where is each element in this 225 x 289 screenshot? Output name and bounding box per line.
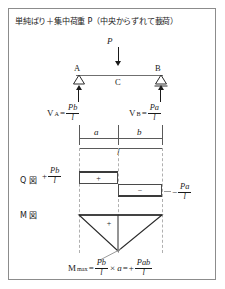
reaction-b-arrow-head-icon: [158, 85, 164, 90]
moment-max-result-denominator: l: [135, 268, 153, 278]
reaction-b-subscript: B: [137, 110, 141, 117]
shear-positive-denominator: l: [48, 176, 61, 186]
reaction-b-symbol: V: [129, 108, 136, 118]
load-arrow-shaft: [118, 47, 119, 62]
reaction-b-formula: V B = Pa l: [129, 104, 161, 123]
moment-max-formula: M max = Pb l × a = + Pab l: [68, 259, 152, 278]
load-point-label-c: C: [115, 77, 121, 87]
dim-label-a: a: [94, 127, 99, 137]
moment-max-term1-fraction: Pb l: [95, 259, 108, 278]
dim-tick-center: [118, 125, 119, 145]
shear-positive-sign: +: [42, 171, 47, 181]
shear-negative-denominator: l: [178, 192, 191, 202]
moment-area-sign: +: [104, 219, 114, 228]
reaction-b-equals: =: [142, 108, 147, 118]
dim-line-span: [79, 148, 163, 149]
support-label-b: B: [155, 63, 161, 73]
shear-negative-numerator: Pa: [178, 183, 191, 192]
reaction-b-denominator: l: [148, 113, 161, 123]
reaction-a-symbol: V: [47, 108, 54, 118]
reaction-a-numerator: Pb: [66, 104, 79, 113]
reaction-a-denominator: l: [66, 113, 79, 123]
shear-positive-numerator: Pb: [48, 167, 61, 176]
dim-tick-left: [79, 125, 80, 145]
moment-max-term1-numerator: Pb: [95, 259, 108, 268]
reaction-a-formula: V A = Pb l: [47, 104, 79, 123]
reaction-b-arrow-shaft: [160, 89, 161, 102]
shear-block-negative: −: [118, 184, 162, 197]
moment-max-times: ×: [110, 263, 115, 273]
reaction-a-arrow-shaft: [78, 89, 79, 102]
shear-negative-leader: [164, 191, 171, 192]
dim-tick-right: [162, 125, 163, 145]
support-a-pinned-icon: [72, 75, 86, 85]
shear-negative-fraction: Pa l: [178, 183, 191, 202]
moment-max-term1-denominator: l: [95, 268, 108, 278]
reaction-a-arrow-head-icon: [76, 85, 82, 90]
shear-diagram-label: Q 図: [20, 174, 37, 185]
dim-line-segments: [79, 138, 163, 139]
shear-block-positive-sign: +: [80, 174, 117, 183]
shear-negative-value: − Pa l: [172, 183, 191, 202]
load-label-P: P: [107, 36, 113, 46]
moment-max-result-fraction: Pab l: [135, 259, 153, 278]
reaction-b-numerator: Pa: [148, 104, 161, 113]
figure-panel: 単純ばり＋集中荷重 P（中央からずれて載荷） P A B C V A = Pb …: [8, 8, 216, 280]
reaction-a-fraction: Pb l: [66, 104, 79, 123]
load-arrow-head-icon: [115, 61, 121, 66]
moment-max-result-sign: +: [129, 263, 134, 273]
moment-max-symbol: M: [68, 263, 76, 273]
dim-label-b: b: [137, 127, 142, 137]
reaction-b-fraction: Pa l: [148, 104, 161, 123]
shear-positive-fraction: Pb l: [48, 167, 61, 186]
shear-negative-sign: −: [172, 187, 177, 197]
moment-max-result-numerator: Pab: [135, 259, 153, 268]
moment-diagram-label: M 図: [20, 209, 37, 220]
shear-block-positive: +: [79, 171, 118, 184]
reaction-a-equals: =: [60, 108, 65, 118]
moment-max-subscript: max: [77, 265, 88, 272]
support-label-a: A: [74, 63, 80, 73]
shear-block-negative-sign: −: [119, 186, 161, 195]
reaction-a-subscript: A: [55, 110, 59, 117]
moment-max-multiplier: a: [117, 263, 122, 273]
beam-line: [76, 75, 163, 76]
moment-max-equals: =: [89, 263, 94, 273]
figure-title: 単純ばり＋集中荷重 P（中央からずれて載荷）: [15, 15, 211, 26]
shear-positive-value: + Pb l: [42, 167, 61, 186]
moment-max-equals2: =: [123, 263, 128, 273]
